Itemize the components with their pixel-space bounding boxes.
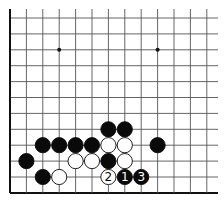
white-stone xyxy=(52,169,67,184)
move-number-label: 2 xyxy=(105,170,113,184)
numbered-black-stone: 3 xyxy=(134,169,149,184)
black-stone xyxy=(101,122,116,137)
black-stone xyxy=(101,154,116,169)
black-stone xyxy=(35,138,50,153)
move-number-label: 3 xyxy=(137,170,145,184)
go-board: 213 xyxy=(0,0,224,206)
black-stone xyxy=(35,169,50,184)
white-stone xyxy=(117,138,132,153)
white-stone xyxy=(68,154,83,169)
white-stone xyxy=(101,138,116,153)
black-stone xyxy=(52,138,67,153)
numbered-black-stone: 1 xyxy=(117,169,132,184)
numbered-white-stone: 2 xyxy=(101,169,116,184)
black-stone xyxy=(117,122,132,137)
black-stone xyxy=(84,138,99,153)
black-stone xyxy=(68,138,83,153)
star-point xyxy=(57,48,61,52)
black-stone xyxy=(19,154,34,169)
white-stone xyxy=(117,154,132,169)
black-stone xyxy=(150,138,165,153)
star-point xyxy=(156,48,160,52)
move-number-label: 1 xyxy=(121,170,129,184)
white-stone xyxy=(84,154,99,169)
